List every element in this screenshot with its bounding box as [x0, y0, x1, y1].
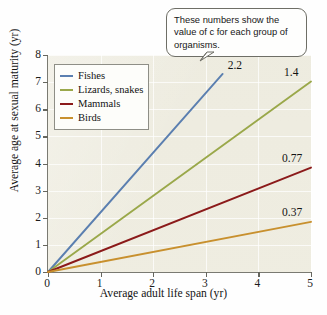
value-label-lizards-snakes: 1.4	[284, 67, 298, 79]
callout-pointer	[0, 0, 327, 315]
chart-figure: 012345678 012345 Average age at sexual m…	[0, 0, 327, 315]
value-label-birds: 0.37	[282, 207, 302, 219]
value-label-fishes: 2.2	[228, 60, 242, 72]
value-label-mammals: 0.77	[282, 153, 302, 165]
